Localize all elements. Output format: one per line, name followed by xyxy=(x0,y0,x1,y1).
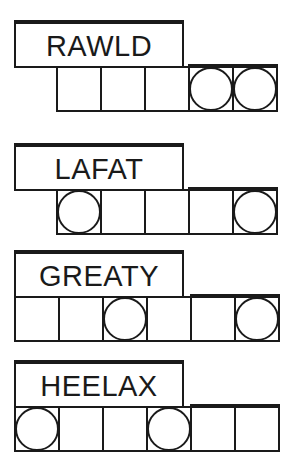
answer-cell-1[interactable] xyxy=(14,296,60,342)
scrambled-word-box: HEELAX xyxy=(14,360,184,408)
answer-cells xyxy=(14,406,280,450)
circle-marker-icon xyxy=(15,407,59,451)
scrambled-word: GREATY xyxy=(39,262,159,291)
answer-cell-1[interactable] xyxy=(14,406,60,452)
answer-cell-3[interactable] xyxy=(102,296,148,342)
answer-cell-2[interactable] xyxy=(100,189,146,235)
circle-marker-icon xyxy=(147,407,191,451)
scrambled-word: RAWLD xyxy=(46,32,152,61)
answer-cell-3[interactable] xyxy=(144,189,190,235)
scrambled-word-box: GREATY xyxy=(14,250,184,298)
puzzle-1: RAWLD xyxy=(0,20,294,112)
scrambled-word: HEELAX xyxy=(40,372,157,401)
answer-cell-4[interactable] xyxy=(188,64,234,112)
answer-cell-2[interactable] xyxy=(58,406,104,452)
circle-marker-icon xyxy=(57,190,101,234)
answer-cell-5[interactable] xyxy=(232,64,278,112)
answer-cell-5[interactable] xyxy=(232,187,278,235)
answer-cells xyxy=(56,189,278,233)
scrambled-word-box: RAWLD xyxy=(14,20,184,68)
scrambled-word-box: LAFAT xyxy=(14,143,184,191)
answer-cell-2[interactable] xyxy=(58,296,104,342)
circle-marker-icon xyxy=(233,190,277,234)
answer-cells xyxy=(14,296,280,340)
answer-cell-6[interactable] xyxy=(234,404,280,452)
answer-cell-4[interactable] xyxy=(146,296,192,342)
answer-cell-6[interactable] xyxy=(234,294,280,342)
answer-cell-2[interactable] xyxy=(100,66,146,112)
answer-cell-3[interactable] xyxy=(102,406,148,452)
answer-cells xyxy=(56,66,278,110)
answer-cell-4[interactable] xyxy=(146,406,192,452)
puzzle-3: GREATY xyxy=(0,250,294,342)
scrambled-word: LAFAT xyxy=(55,155,144,184)
answer-cell-5[interactable] xyxy=(190,404,236,452)
answer-cell-4[interactable] xyxy=(188,187,234,235)
circle-marker-icon xyxy=(189,67,233,111)
answer-cell-1[interactable] xyxy=(56,66,102,112)
circle-marker-icon xyxy=(233,67,277,111)
answer-cell-5[interactable] xyxy=(190,294,236,342)
puzzle-4: HEELAX xyxy=(0,360,294,452)
circle-marker-icon xyxy=(103,297,147,341)
answer-cell-1[interactable] xyxy=(56,189,102,235)
circle-marker-icon xyxy=(235,297,279,341)
answer-cell-3[interactable] xyxy=(144,66,190,112)
puzzle-2: LAFAT xyxy=(0,143,294,235)
